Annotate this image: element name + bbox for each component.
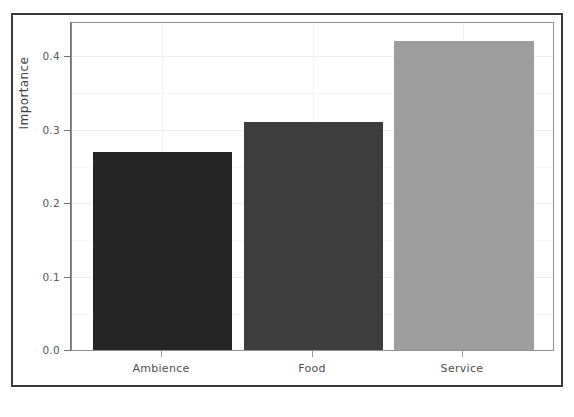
x-tick-label-ambience: Ambience [111, 362, 211, 375]
y-tick-0.0 [64, 350, 70, 351]
y-axis-line [70, 22, 71, 351]
y-tick-0.1 [64, 277, 70, 278]
bar-ambience [93, 152, 232, 350]
x-tick-food [312, 351, 313, 357]
plot-panel [71, 22, 554, 351]
x-tick-label-food: Food [262, 362, 362, 375]
bar-service [394, 41, 534, 350]
y-tick-label-0.2: 0.2 [42, 197, 60, 209]
y-tick-label-0.1: 0.1 [42, 271, 60, 283]
bar-food [244, 122, 383, 350]
x-tick-ambience [161, 351, 162, 357]
x-tick-service [462, 351, 463, 357]
y-tick-label-0.4: 0.4 [42, 50, 60, 62]
y-tick-label-0.0: 0.0 [42, 344, 60, 356]
y-tick-0.4 [64, 56, 70, 57]
x-tick-label-service: Service [412, 362, 512, 375]
y-tick-0.3 [64, 130, 70, 131]
figure-root: 0.4 0.3 0.2 0.1 0.0 Importance Ambience … [0, 0, 574, 417]
y-tick-label-0.3: 0.3 [42, 124, 60, 136]
y-axis-title: Importance [17, 28, 31, 158]
y-tick-0.2 [64, 203, 70, 204]
